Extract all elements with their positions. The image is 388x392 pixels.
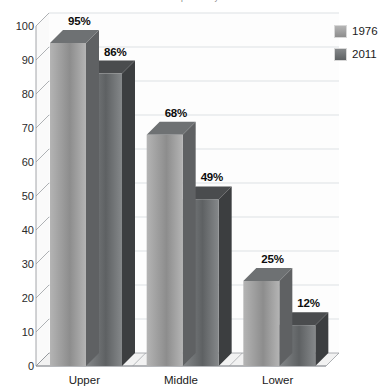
value-label-upper-1976: 95% [68, 15, 90, 27]
value-label-middle-1976: 68% [165, 107, 187, 119]
x-tick-label-middle: Middle [133, 374, 230, 386]
legend-item-0[interactable]: 1976 [334, 22, 378, 40]
legend: 1976 2011 [334, 22, 378, 68]
bar-upper-1976[interactable] [50, 30, 99, 366]
value-label-lower-1976: 25% [261, 253, 283, 265]
bar-front-face [243, 281, 279, 366]
bar-lower-1976[interactable] [243, 268, 292, 366]
legend-item-1[interactable]: 2011 [334, 45, 378, 63]
bar-side-face [219, 186, 232, 366]
bar-middle-1976[interactable] [147, 122, 196, 366]
value-label-middle-2011: 49% [201, 171, 223, 183]
legend-swatch-2011 [334, 48, 347, 61]
legend-label-2011: 2011 [352, 49, 377, 60]
x-tick-label-lower: Lower [229, 374, 326, 386]
legend-label-1976: 1976 [352, 26, 378, 37]
plot-area [0, 0, 388, 392]
value-label-upper-2011: 86% [104, 46, 126, 58]
bar-front-face [147, 135, 183, 366]
bar-side-face [86, 30, 99, 366]
bar-side-face [122, 61, 135, 366]
bar-chart: percent by class 0102030405060708090100 … [0, 0, 388, 392]
bar-side-face [183, 122, 196, 366]
bar-front-face [50, 43, 86, 366]
legend-swatch-1976 [334, 25, 347, 38]
x-tick-label-upper: Upper [36, 374, 133, 386]
value-label-lower-2011: 12% [297, 297, 319, 309]
bar-side-face [279, 268, 292, 366]
